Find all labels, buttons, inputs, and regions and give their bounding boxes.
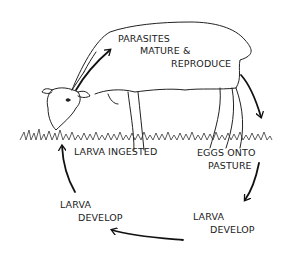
label-larva-left-line1: LARVA xyxy=(60,199,91,211)
label-larva-right-line2: DEVELOP xyxy=(210,224,255,236)
life-cycle-diagram: PARASITES MATURE & REPRODUCE EGGS ONTO P… xyxy=(0,0,299,257)
label-larva-right-line1: LARVA xyxy=(193,211,224,223)
sheep-head xyxy=(47,88,80,130)
label-larva-left-line2: DEVELOP xyxy=(78,212,123,224)
label-parasites-line3: REPRODUCE xyxy=(171,58,231,70)
grass xyxy=(20,129,272,140)
label-eggs-line2: PASTURE xyxy=(208,160,252,172)
arrow-to-larva-left xyxy=(112,230,183,240)
label-parasites-line1: PARASITES xyxy=(118,33,170,45)
label-parasites-line2: MATURE & xyxy=(140,45,191,57)
label-eggs-line1: EGGS ONTO xyxy=(197,147,256,159)
arrow-to-eggs xyxy=(241,75,261,117)
sheep-front-leg xyxy=(128,92,144,150)
label-larva-ingested: LARVA INGESTED xyxy=(74,146,157,158)
